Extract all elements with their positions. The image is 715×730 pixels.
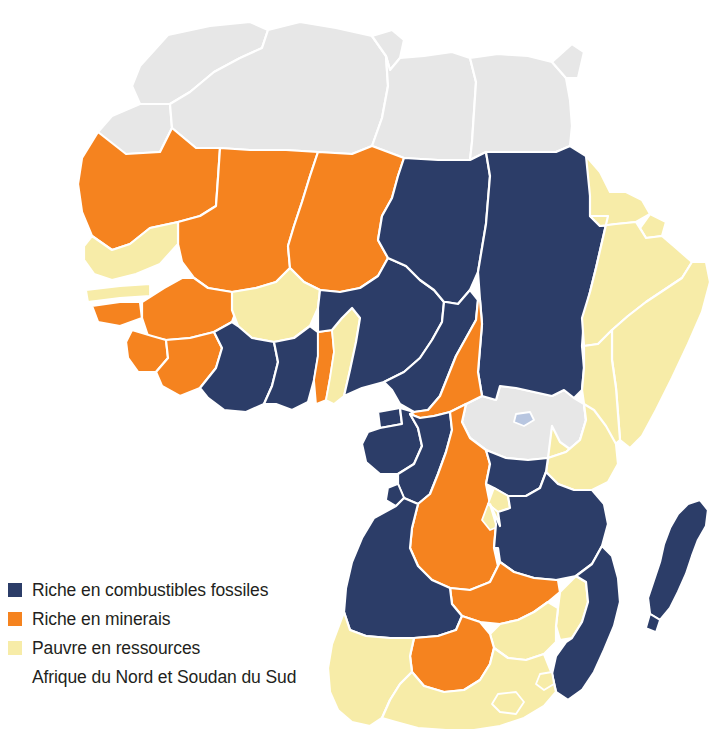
legend-swatch-fossil-fuels: [8, 583, 22, 597]
legend-swatch-resource-poor: [8, 641, 22, 655]
map-legend: Riche en combustibles fossiles Riche en …: [6, 575, 376, 691]
region-gambie: [86, 284, 150, 302]
legend-item-minerals[interactable]: Riche en minerais: [6, 604, 376, 633]
legend-swatch-minerals: [8, 612, 22, 626]
legend-item-resource-poor[interactable]: Pauvre en ressources: [6, 633, 376, 662]
legend-item-fossil-fuels[interactable]: Riche en combustibles fossiles: [6, 575, 376, 604]
africa-resources-map: Riche en combustibles fossiles Riche en …: [0, 0, 715, 730]
region-madagascar: [648, 500, 708, 620]
region-guinee-bissau: [92, 302, 142, 326]
legend-label-resource-poor: Pauvre en ressources: [32, 638, 200, 658]
legend-label-fossil-fuels: Riche en combustibles fossiles: [32, 580, 268, 600]
region-egypte: [470, 54, 572, 160]
legend-swatch-north-africa-south-sudan: [8, 670, 22, 684]
legend-item-north-africa-south-sudan[interactable]: Afrique du Nord et Soudan du Sud: [6, 662, 376, 691]
legend-label-minerals: Riche en minerais: [32, 609, 170, 629]
region-libye: [372, 52, 476, 160]
legend-label-north-africa-south-sudan: Afrique du Nord et Soudan du Sud: [32, 667, 296, 687]
